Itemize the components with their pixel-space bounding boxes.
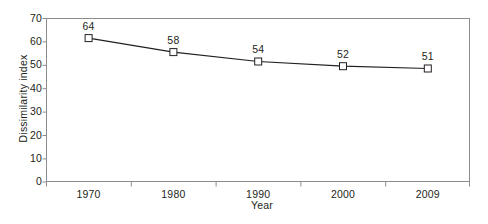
point-label-1990: 54: [245, 44, 271, 55]
y-axis-title: Dissimilarity index: [18, 29, 29, 169]
point-label-2009: 51: [415, 51, 441, 62]
data-point-value-labels: 64 58 54 52 51: [0, 0, 488, 224]
point-label-1980: 58: [160, 35, 186, 46]
x-axis-title: Year: [239, 200, 285, 211]
chart-figure: 70 60 50 40 30 20 10 0 1970 1980 1990 20…: [0, 0, 488, 224]
point-label-1970: 64: [76, 21, 102, 32]
point-label-2000: 52: [330, 49, 356, 60]
